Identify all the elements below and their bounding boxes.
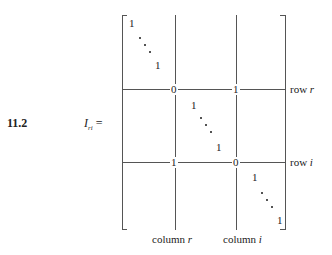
- row-i-label: row i: [290, 156, 313, 168]
- block3-first-one: 1: [251, 172, 259, 183]
- block1-first-one: 1: [128, 18, 136, 29]
- column-r-line: [175, 15, 176, 230]
- diagonal-dot: [205, 124, 207, 126]
- block3-last-one: 1: [276, 215, 284, 226]
- matrix-lhs: Iri=: [84, 116, 102, 132]
- lhs-subscript: ri: [88, 124, 93, 132]
- block1-last-one: 1: [154, 60, 162, 71]
- row-r-line: [123, 89, 285, 90]
- row-r-col-r-value: 0: [170, 84, 178, 95]
- column-r-label: column r: [152, 233, 192, 245]
- block2-first-one: 1: [190, 100, 198, 111]
- row-r-col-i-value: 1: [232, 84, 240, 95]
- column-i-label: column i: [223, 233, 262, 245]
- column-i-line: [236, 15, 237, 230]
- equals-sign: =: [96, 116, 103, 130]
- row-i-col-i-value: 0: [232, 157, 240, 168]
- row-i-line: [123, 162, 285, 163]
- diagonal-dot: [200, 117, 202, 119]
- diagonal-dot: [266, 199, 268, 201]
- diagonal-dot: [271, 206, 273, 208]
- row-r-label: row r: [290, 83, 314, 95]
- row-i-col-r-value: 1: [170, 157, 178, 168]
- diagonal-dot: [139, 37, 141, 39]
- diagonal-dot: [210, 131, 212, 133]
- diagonal-dot: [144, 44, 146, 46]
- diagonal-dot: [149, 51, 151, 53]
- diagonal-dot: [261, 192, 263, 194]
- block2-last-one: 1: [215, 142, 223, 153]
- equation-number: 11.2: [7, 116, 27, 131]
